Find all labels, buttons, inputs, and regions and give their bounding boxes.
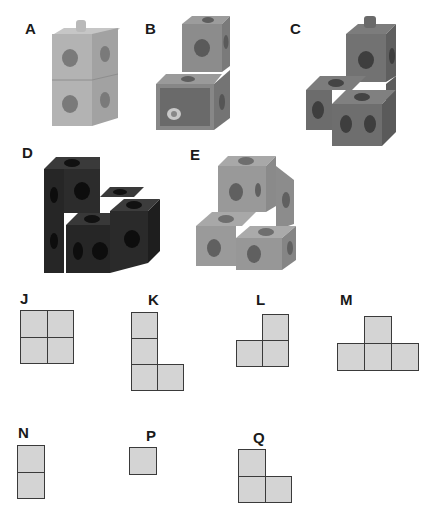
grid-cell — [20, 337, 48, 365]
cube-photo-e — [196, 148, 308, 270]
cube-photo-d — [44, 155, 164, 275]
label-n: N — [18, 425, 29, 440]
label-a: A — [25, 21, 36, 36]
cube-photo-c — [306, 12, 426, 147]
label-p: P — [146, 428, 156, 443]
grid-cell — [364, 316, 392, 344]
grid-cell — [131, 312, 158, 339]
label-l: L — [256, 292, 265, 307]
grid-cell — [131, 338, 158, 365]
label-j: J — [20, 291, 28, 306]
linking-cubes-icon — [152, 12, 232, 134]
linking-cubes-icon — [44, 155, 164, 275]
label-d: D — [22, 145, 33, 160]
grid-cell — [364, 343, 392, 371]
grid-cell — [262, 340, 289, 367]
label-c: C — [290, 21, 301, 36]
grid-cell — [265, 476, 293, 504]
label-k: K — [148, 292, 159, 307]
grid-cell — [20, 310, 48, 338]
linking-cubes-icon — [48, 18, 124, 130]
cube-photo-a — [48, 18, 124, 130]
grid-cell — [262, 314, 289, 341]
grid-cell — [47, 310, 75, 338]
cube-photo-b — [152, 12, 232, 134]
label-q: Q — [253, 430, 265, 445]
grid-cell — [17, 445, 45, 473]
grid-cell — [337, 343, 365, 371]
grid-cell — [238, 449, 266, 477]
grid-cell — [157, 364, 184, 391]
linking-cubes-icon — [306, 12, 426, 147]
grid-cell — [238, 476, 266, 504]
grid-cell — [17, 472, 45, 500]
grid-cell — [47, 337, 75, 365]
grid-cell — [129, 447, 157, 475]
label-m: M — [340, 292, 353, 307]
linking-cubes-icon — [196, 148, 308, 270]
grid-cell — [391, 343, 419, 371]
grid-cell — [236, 340, 263, 367]
grid-cell — [131, 364, 158, 391]
